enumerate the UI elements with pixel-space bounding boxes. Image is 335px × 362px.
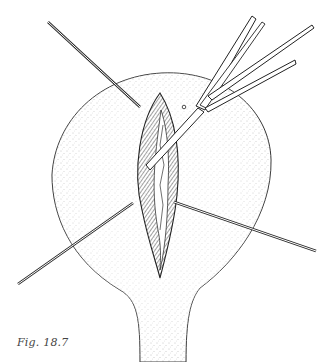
figure-caption: Fig. 18.7: [17, 336, 68, 349]
surgical-illustration: [0, 0, 335, 362]
stay-suture-upper-left: [48, 22, 140, 107]
